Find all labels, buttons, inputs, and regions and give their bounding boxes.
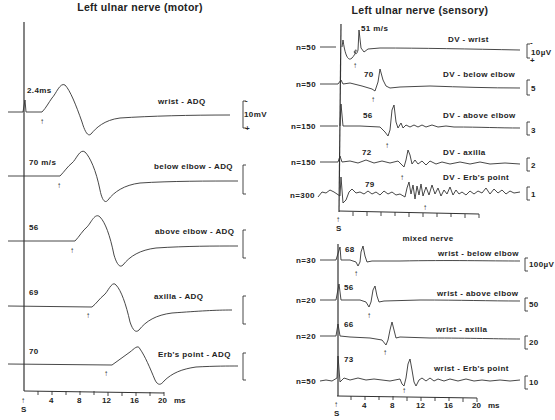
mixed-trace-below-elbow: n=30 68 wrist - below elbow ↑ 100µV <box>296 245 555 278</box>
motor-scale-bar <box>243 353 246 380</box>
sensory-label-wrist: DV - wrist <box>448 35 489 44</box>
mixed-n-erbs-point: n=50 <box>296 377 316 386</box>
mixed-scale-above-elbow: 50 <box>529 300 539 309</box>
mixed-note-above-elbow: 56 <box>344 283 354 292</box>
motor-tick-12: 12 <box>102 396 111 405</box>
sensory-scale-erbs-point: 1 <box>531 190 536 199</box>
sensory-label-above-elbow: DV - above elbow <box>443 111 516 120</box>
onset-arrow-icon: ↑ <box>367 311 371 320</box>
onset-arrow-icon: ↑ <box>70 246 74 255</box>
sensory-n-wrist: n=50 <box>296 43 316 52</box>
motor-trace-axilla: 69 axilla - ADQ ↑ <box>8 284 246 332</box>
stim-arrow-icon: ↑ <box>21 396 25 405</box>
sensory-note-erbs-point: 79 <box>365 180 375 189</box>
onset-arrow-icon: ↑ <box>354 269 358 278</box>
mixed-trace-axilla: n=20 66 wrist - axilla ↑ 20 <box>296 320 539 357</box>
onset-arrow-icon: ↑ <box>57 181 61 190</box>
stim-arrow-icon: ↑ <box>334 400 338 409</box>
sensory-trace-erbs-point: n=300 79 DV - Erb's point ↑ 1 <box>290 173 536 212</box>
motor-title: Left ulnar nerve (motor) <box>77 1 203 13</box>
motor-label-wrist: wrist - ADQ <box>157 97 206 106</box>
onset-arrow-icon: ↑ <box>400 173 404 182</box>
mixed-stim-label: S <box>334 409 340 418</box>
sensory-scale-bar <box>527 80 530 95</box>
onset-arrow-icon: ↑ <box>104 369 108 378</box>
mixed-x-axis: ↑ S 4 8 12 16 20 ms <box>334 396 500 418</box>
mixed-tick-4: 4 <box>362 401 367 410</box>
mixed-note-erbs-point: 73 <box>344 355 354 364</box>
motor-trace-wrist: 2.4ms wrist - ADQ ↑ - 10mV + <box>8 85 267 135</box>
sensory-scale-above-elbow: 3 <box>531 126 536 135</box>
mixed-tick-20: 20 <box>472 401 481 410</box>
sensory-n-below-elbow: n=50 <box>296 80 316 89</box>
sensory-note-above-elbow: 56 <box>363 111 373 120</box>
mixed-scale-bar <box>525 336 528 349</box>
motor-tick-8: 8 <box>77 396 82 405</box>
motor-trace-below-elbow: 70 m/s below elbow - ADQ ↑ <box>8 151 246 201</box>
mixed-scale-bar <box>525 298 528 311</box>
sensory-n-erbs-point: n=300 <box>290 191 315 200</box>
motor-scale-bar <box>243 230 246 258</box>
mixed-n-above-elbow: n=20 <box>296 296 316 305</box>
sensory-title: Left ulnar nerve (sensory) <box>352 4 489 16</box>
motor-note-axilla: 69 <box>29 288 39 297</box>
mixed-scale-erbs-point: 10 <box>529 378 539 387</box>
onset-arrow-icon: ↑ <box>40 117 44 126</box>
motor-note-wrist: 2.4ms <box>27 86 52 95</box>
motor-note-below-elbow: 70 m/s <box>29 158 56 167</box>
sensory-panel: Left ulnar nerve (sensory) n=50 51 m/s D… <box>290 4 552 233</box>
mixed-tick-8: 8 <box>390 401 395 410</box>
sensory-x-axis: ↑ S <box>336 211 479 233</box>
sensory-note-below-elbow: 70 <box>364 70 374 79</box>
motor-trace-erbs-point: 70 Erb's point - ADQ ↑ <box>8 347 246 384</box>
mixed-axis-unit: ms <box>488 401 500 410</box>
motor-x-axis: ↑ S 4 8 12 16 20 ms <box>21 391 186 414</box>
sensory-scale-axilla: 2 <box>531 161 536 170</box>
motor-note-erbs-point: 70 <box>29 347 39 356</box>
mixed-note-below-elbow: 68 <box>345 245 355 254</box>
motor-label-above-elbow: above elbow - ADQ <box>155 227 234 236</box>
motor-panel: Left ulnar nerve (motor) 2.4ms wrist - A… <box>8 1 267 414</box>
mixed-scale-axilla: 20 <box>529 338 539 347</box>
sensory-label-erbs-point: DV - Erb's point <box>443 173 509 182</box>
sensory-label-below-elbow: DV - below elbow <box>443 70 516 79</box>
motor-axis-unit: ms <box>174 396 186 405</box>
motor-tick-4: 4 <box>49 396 54 405</box>
sensory-trace-wrist: n=50 51 m/s DV - wrist ↑ - 10µV + <box>296 24 552 70</box>
sensory-n-above-elbow: n=150 <box>291 122 316 131</box>
scale-plus: + <box>530 56 535 65</box>
motor-stim-label: S <box>21 405 27 414</box>
sensory-note-axilla: 72 <box>362 148 372 157</box>
onset-arrow-icon: ↑ <box>423 203 427 212</box>
stim-arrow-icon: ↑ <box>336 215 340 224</box>
motor-label-erbs-point: Erb's point - ADQ <box>158 350 231 359</box>
sensory-label-axilla: DV - axilla <box>443 148 486 157</box>
mixed-label-above-elbow: wrist - above elbow <box>436 289 519 298</box>
sensory-scale-below-elbow: 5 <box>531 84 536 93</box>
motor-scale-bar <box>243 165 246 194</box>
onset-arrow-icon: ↑ <box>86 311 90 320</box>
scale-plus: + <box>245 124 250 133</box>
motor-label-below-elbow: below elbow - ADQ <box>154 162 233 171</box>
mixed-title: mixed nerve <box>402 234 453 243</box>
mixed-label-erbs-point: wrist - Erb's point <box>433 364 509 373</box>
motor-trace-above-elbow: 56 above elbow - ADQ ↑ <box>8 216 246 266</box>
mixed-label-axilla: wrist - axilla <box>435 325 488 334</box>
motor-tick-16: 16 <box>130 396 139 405</box>
mixed-note-axilla: 66 <box>344 320 354 329</box>
mixed-trace-above-elbow: n=20 56 wrist - above elbow ↑ 50 <box>296 283 539 320</box>
onset-arrow-icon: ↑ <box>353 61 357 70</box>
motor-scale-label: 10mV <box>244 110 267 119</box>
sensory-trace-above-elbow: n=150 56 DV - above elbow ↑ 3 <box>291 104 536 150</box>
scale-minus: - <box>530 38 533 47</box>
sensory-note-wrist: 51 m/s <box>361 24 388 33</box>
mixed-scale-bar <box>525 258 528 271</box>
onset-arrow-icon: ↑ <box>385 141 389 150</box>
motor-label-axilla: axilla - ADQ <box>154 292 203 301</box>
sensory-scale-bar <box>527 187 530 200</box>
sensory-stim-label: S <box>336 224 342 233</box>
mixed-tick-12: 12 <box>416 401 425 410</box>
sensory-trace-below-elbow: n=50 70 DV - below elbow ↑ 5 <box>296 69 536 104</box>
mixed-panel: mixed nerve n=30 68 wrist - below elbow … <box>296 234 555 418</box>
sensory-scale-bar <box>527 122 530 135</box>
